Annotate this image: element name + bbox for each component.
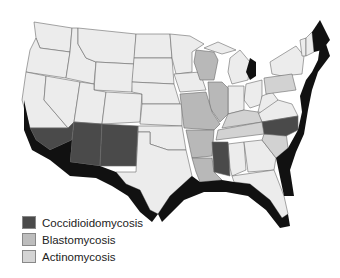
legend-label: Coccidioidomycosis	[42, 217, 143, 229]
state-mississippi	[212, 142, 230, 176]
state-arizona	[70, 122, 102, 166]
state-kansas	[140, 104, 182, 126]
legend-swatch-coccidioidomycosis	[22, 216, 36, 229]
state-new-mexico	[100, 124, 138, 166]
legend: Coccidioidomycosis Blastomycosis Actinom…	[22, 214, 143, 265]
legend-item-blastomycosis: Blastomycosis	[22, 231, 143, 248]
base-states	[22, 22, 314, 218]
legend-label: Actinomycosis	[42, 251, 116, 263]
state-michigan	[228, 50, 250, 84]
state-indiana	[228, 86, 244, 114]
state-new-york	[270, 46, 304, 76]
legend-swatch-actinomycosis	[22, 250, 36, 263]
legend-label: Blastomycosis	[42, 234, 116, 246]
state-pennsylvania	[264, 74, 296, 94]
state-colorado	[102, 92, 142, 124]
legend-item-actinomycosis: Actinomycosis	[22, 248, 143, 265]
state-north-dakota	[134, 34, 172, 58]
legend-swatch-blastomycosis	[22, 233, 36, 246]
state-wyoming	[94, 62, 134, 92]
state-maine	[312, 20, 330, 52]
state-south-dakota	[132, 58, 174, 84]
state-montana	[78, 28, 136, 64]
legend-item-coccidioidomycosis: Coccidioidomycosis	[22, 214, 143, 231]
state-alabama	[228, 142, 246, 176]
state-arkansas	[186, 130, 214, 158]
state-ohio	[244, 80, 262, 108]
